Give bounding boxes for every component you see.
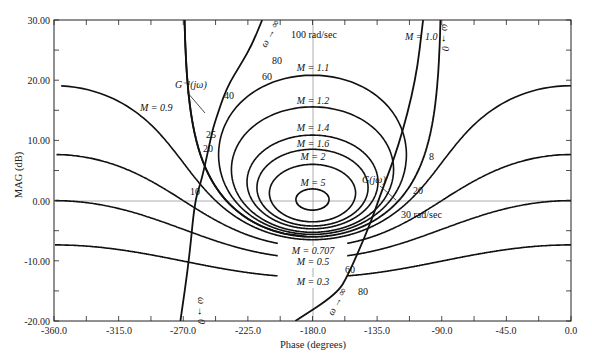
g-inverse-locus [180, 20, 262, 321]
m-contour [296, 189, 329, 210]
nichols-chart: 30.00 20.00 10.00 0.00 -10.00 -20.00 MAG… [0, 0, 592, 361]
x-tick-label: -90.0 [432, 325, 453, 336]
y-tick-label: 10.00 [28, 135, 51, 146]
m-label-5: M = 5 [299, 177, 325, 188]
m-label-14: M = 1.4 [296, 122, 330, 133]
omega-zero-bottom-label: ω → 0 [196, 297, 207, 324]
m-label-09: M = 0.9 [139, 102, 173, 113]
omega-20-label: 20 [203, 143, 213, 154]
omega-inf-bottom-label: ω → ∞ [325, 286, 348, 317]
x-tick-label: -225.0 [235, 325, 261, 336]
m-label-11: M = 1.1 [296, 62, 330, 73]
m-label-12: M = 1.2 [296, 95, 330, 106]
g-label: G(jω) [362, 174, 386, 186]
m-contour-unity-left [185, 20, 307, 237]
m-label-16: M = 1.6 [296, 138, 330, 149]
x-tick-label: -45.0 [496, 325, 517, 336]
y-tick-label: 30.00 [28, 15, 51, 26]
m-label-0707: M = 0.707 [291, 245, 336, 256]
y-tick-label: 0.00 [33, 196, 51, 207]
omega-30-label: 30 rad/sec [401, 209, 442, 220]
omega-zero-top-label: ω → 0 [440, 24, 451, 51]
y-tick-label: -10.00 [24, 256, 50, 267]
m-contour [269, 164, 355, 221]
x-axis: -360.0 -315.0 -270.0 -225.0 -180.0 -135.… [41, 325, 577, 351]
y-tick-label: 20.00 [28, 75, 51, 86]
omega-60b-label: 60 [345, 264, 355, 275]
m-label-2: M = 2 [299, 151, 325, 162]
g-leader [380, 186, 396, 200]
omega-25-label: 25 [206, 129, 216, 140]
omega-8-label: 8 [429, 151, 434, 162]
m-contour [57, 155, 572, 244]
y-axis: 30.00 20.00 10.00 0.00 -10.00 -20.00 MAG… [13, 15, 50, 327]
y-axis-title: MAG (dB) [13, 151, 25, 198]
m-label-03: M = 0.3 [296, 276, 330, 287]
ginv-label: G⁻¹(jω) [175, 79, 207, 91]
x-tick-label: -360.0 [41, 325, 67, 336]
m-label-05: M = 0.5 [296, 256, 330, 267]
x-tick-label: -270.0 [170, 325, 196, 336]
omega-100-label: 100 rad/sec [291, 29, 337, 40]
omega-20b-label: 20 [413, 185, 423, 196]
omega-80b-label: 80 [358, 286, 368, 297]
m-label-10: M = 1.0 [404, 31, 438, 42]
omega-80-label: 80 [272, 55, 282, 66]
x-axis-title: Phase (degrees) [280, 339, 347, 351]
x-tick-label: -315.0 [106, 325, 132, 336]
omega-60-label: 60 [262, 71, 272, 82]
omega-40-label: 40 [224, 90, 234, 101]
omega-10-label: 10 [190, 186, 200, 197]
x-tick-label: -135.0 [364, 325, 390, 336]
x-tick-label: 0.0 [565, 325, 578, 336]
m-contour [61, 86, 571, 240]
x-tick-label: -180.0 [300, 325, 326, 336]
